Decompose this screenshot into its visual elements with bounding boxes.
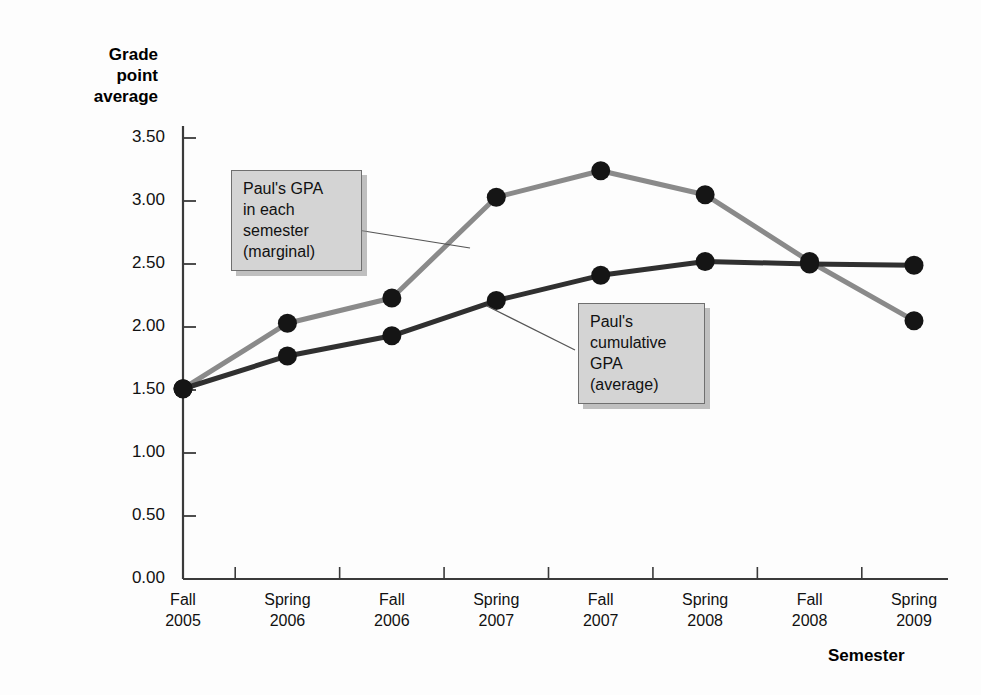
- x-tick-label-year: 2006: [232, 610, 342, 631]
- x-tick-label-year: 2008: [755, 610, 865, 631]
- data-point-marker: [382, 289, 401, 308]
- data-point-marker: [591, 266, 610, 285]
- x-tick-label: Spring2007: [441, 589, 551, 631]
- x-tick-label: Spring2008: [650, 589, 760, 631]
- x-tick-label-season: Spring: [473, 591, 519, 608]
- leader-line-cumulative: [487, 306, 575, 350]
- x-tick-label-year: 2009: [859, 610, 969, 631]
- data-point-marker: [905, 311, 924, 330]
- x-tick-label-year: 2008: [650, 610, 760, 631]
- x-tick-label-season: Fall: [797, 591, 823, 608]
- x-tick-label: Fall2008: [755, 589, 865, 631]
- data-point-marker: [278, 314, 297, 333]
- data-point-marker: [174, 379, 193, 398]
- y-tick-label: 2.50: [95, 253, 165, 273]
- y-tick-label: 1.50: [95, 379, 165, 399]
- data-point-marker: [591, 161, 610, 180]
- data-point-marker: [382, 326, 401, 345]
- data-point-marker: [278, 346, 297, 365]
- x-tick-label-year: 2007: [546, 610, 656, 631]
- y-tick-label: 3.50: [95, 127, 165, 147]
- y-tick-label: 2.00: [95, 316, 165, 336]
- x-tick-label: Spring2009: [859, 589, 969, 631]
- annotation-marginal: Paul's GPA in each semester (marginal): [231, 170, 362, 271]
- annotation-cumulative: Paul's cumulative GPA (average): [578, 303, 705, 404]
- x-tick-label-year: 2006: [337, 610, 447, 631]
- x-tick-label-year: 2005: [128, 610, 238, 631]
- x-tick-label: Spring2006: [232, 589, 342, 631]
- chart-figure: Grade point average Semester 3.503.002.5…: [0, 0, 981, 695]
- x-axis-ticks: [235, 567, 862, 579]
- x-tick-label-season: Fall: [588, 591, 614, 608]
- x-tick-label-season: Spring: [682, 591, 728, 608]
- data-point-marker: [696, 185, 715, 204]
- x-tick-label-year: 2007: [441, 610, 551, 631]
- x-tick-label: Fall2006: [337, 589, 447, 631]
- y-axis-ticks: [183, 138, 196, 579]
- x-tick-label-season: Fall: [379, 591, 405, 608]
- x-tick-label: Fall2005: [128, 589, 238, 631]
- x-tick-label: Fall2007: [546, 589, 656, 631]
- x-tick-label-season: Spring: [264, 591, 310, 608]
- data-point-marker: [800, 255, 819, 274]
- data-point-marker: [696, 252, 715, 271]
- y-axis-title: Grade point average: [48, 44, 158, 107]
- y-tick-label: 0.00: [95, 568, 165, 588]
- x-tick-label-season: Spring: [891, 591, 937, 608]
- y-tick-label: 0.50: [95, 505, 165, 525]
- x-tick-label-season: Fall: [170, 591, 196, 608]
- y-tick-label: 1.00: [95, 442, 165, 462]
- data-point-marker: [905, 256, 924, 275]
- data-point-marker: [487, 188, 506, 207]
- x-axis-title: Semester: [828, 645, 948, 666]
- y-tick-label: 3.00: [95, 190, 165, 210]
